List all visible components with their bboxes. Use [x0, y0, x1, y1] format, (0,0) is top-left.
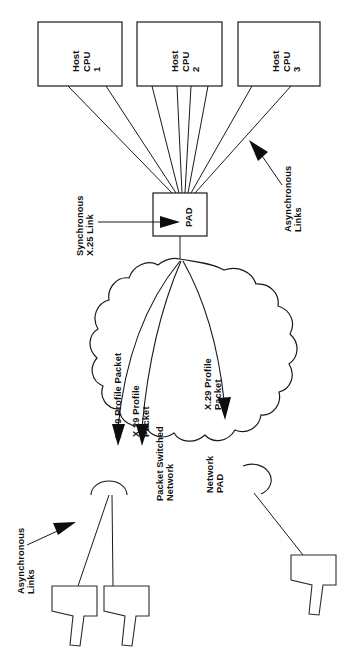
network-diagram: Host CPU 1 Host CPU 2 Host CPU 3 PAD Asy…	[0, 0, 355, 653]
host-cpu-1-box	[38, 22, 122, 86]
host-cpu-2-box	[137, 22, 222, 86]
host-cpu-3-box	[238, 22, 320, 86]
async-link-group	[68, 86, 291, 193]
packet-switched-network-cloud	[90, 258, 297, 441]
pad-box	[153, 193, 207, 236]
terminal-2-shape	[104, 586, 149, 646]
diagram-canvas	[0, 0, 355, 653]
terminal-3-shape	[291, 555, 336, 615]
async-links-bottom-annotation-line	[27, 522, 76, 545]
async-links-top-annotation-line	[249, 140, 282, 185]
terminal-1-shape	[52, 586, 97, 646]
terminal-link-group	[78, 493, 303, 586]
network-pad-bump-left	[91, 481, 127, 495]
network-pad-bump-right	[243, 464, 271, 494]
